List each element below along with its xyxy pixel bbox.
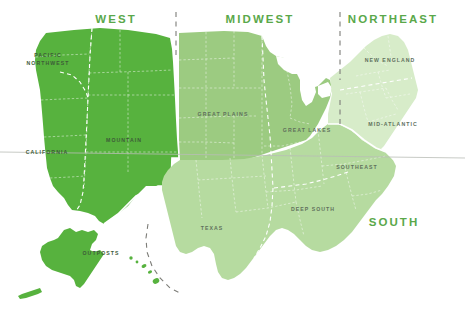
subregion-label-california[interactable]: CALIFORNIA bbox=[26, 149, 69, 155]
subregion-label-outposts[interactable]: OUTPOSTS bbox=[83, 250, 120, 256]
subregion-label-pacific-northwest-line1[interactable]: PACIFIC bbox=[34, 52, 62, 58]
alaska-aleutian-tail[interactable] bbox=[18, 288, 42, 299]
subregion-label-new-england[interactable]: NEW ENGLAND bbox=[365, 57, 416, 63]
alaska-landmass[interactable] bbox=[40, 228, 104, 288]
map-svg: WEST MIDWEST NORTHEAST SOUTH PACIFIC NOR… bbox=[0, 0, 465, 315]
region-title-south[interactable]: SOUTH bbox=[369, 216, 420, 228]
region-title-northeast[interactable]: NORTHEAST bbox=[348, 13, 438, 25]
subregion-label-texas[interactable]: TEXAS bbox=[201, 225, 224, 231]
region-outposts[interactable] bbox=[18, 224, 182, 299]
subregion-label-great-lakes[interactable]: GREAT LAKES bbox=[283, 127, 331, 133]
region-title-west[interactable]: WEST bbox=[95, 13, 137, 25]
subregion-label-great-plains[interactable]: GREAT PLAINS bbox=[198, 111, 249, 117]
subregion-label-southeast[interactable]: SOUTHEAST bbox=[336, 164, 377, 170]
subregion-label-mid-atlantic[interactable]: MID-ATLANTIC bbox=[368, 121, 417, 127]
subregion-label-deep-south[interactable]: DEEP SOUTH bbox=[291, 206, 335, 212]
subregion-label-pacific-northwest-line2[interactable]: NORTHWEST bbox=[27, 60, 70, 66]
us-regions-map: WEST MIDWEST NORTHEAST SOUTH PACIFIC NOR… bbox=[0, 0, 465, 315]
subregion-label-mountain[interactable]: MOUNTAIN bbox=[106, 137, 142, 143]
region-title-midwest[interactable]: MIDWEST bbox=[226, 13, 295, 25]
